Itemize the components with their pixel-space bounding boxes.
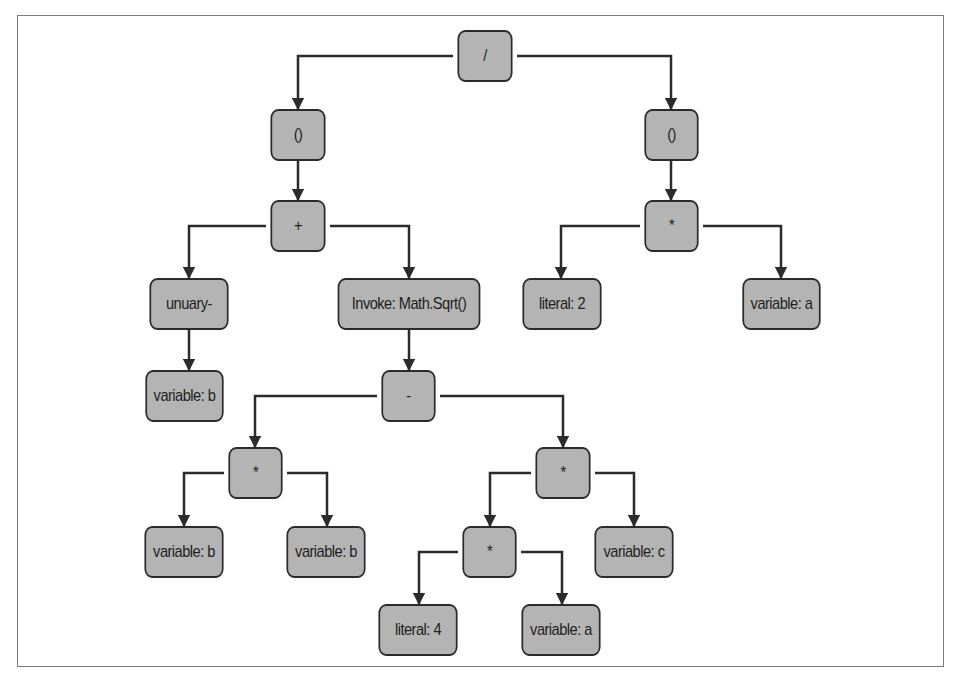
edges-layer — [0, 0, 961, 685]
node-label: literal: 2 — [539, 294, 585, 314]
node-multiply-4ac: * — [535, 447, 590, 499]
edge-arrow-mult-right-top-to-variable-a-top — [703, 226, 781, 278]
node-root-divide: / — [457, 30, 512, 82]
node-variable-b-1: variable: b — [144, 526, 223, 578]
node-plus: + — [270, 200, 325, 252]
edge-arrow-root-to-paren-right — [517, 56, 671, 109]
edge-arrow-mult-4ac-to-variable-c — [595, 473, 634, 526]
node-multiply-bb: * — [228, 447, 282, 499]
node-variable-b-2: variable: b — [286, 526, 365, 578]
node-unary-minus: unuary- — [149, 278, 228, 330]
edge-arrow-mult-bb-to-variable-b-1 — [184, 473, 224, 526]
node-label: variable: a — [751, 294, 813, 314]
edge-arrow-mult-right-top-to-literal-2 — [561, 226, 640, 278]
node-variable-b-unary: variable: b — [145, 370, 223, 422]
node-literal-2: literal: 2 — [522, 278, 601, 330]
node-variable-a-bottom: variable: a — [521, 604, 600, 656]
node-label: * — [487, 542, 492, 562]
node-literal-4: literal: 4 — [378, 604, 457, 656]
node-label: variable: b — [153, 542, 215, 562]
node-label: * — [560, 463, 565, 483]
node-multiply-4a: * — [462, 526, 516, 578]
node-label: literal: 4 — [395, 620, 441, 640]
node-variable-a-top: variable: a — [742, 278, 820, 330]
node-label: unuary- — [166, 294, 212, 314]
edge-arrow-root-to-paren-left — [298, 56, 453, 109]
node-label: variable: c — [604, 542, 665, 562]
edge-arrow-minus-to-mult-bb — [255, 396, 377, 447]
node-paren-left: () — [270, 109, 325, 161]
node-label: * — [669, 216, 674, 236]
node-label: () — [667, 125, 676, 145]
node-label: - — [406, 386, 410, 406]
edge-arrow-mult-4a-to-literal-4 — [419, 552, 458, 604]
node-minus: - — [381, 370, 435, 422]
edge-arrow-plus-to-invoke-sqrt — [330, 226, 409, 278]
node-label: variable: b — [295, 542, 357, 562]
edge-arrow-minus-to-mult-4ac — [440, 396, 563, 447]
node-label: + — [294, 216, 302, 236]
node-label: * — [253, 463, 258, 483]
node-invoke-sqrt: Invoke: Math.Sqrt() — [338, 278, 481, 330]
edge-arrow-mult-4ac-to-mult-4a — [490, 473, 531, 526]
edge-arrow-mult-bb-to-variable-b-2 — [287, 473, 327, 526]
node-label: / — [483, 46, 487, 66]
edge-arrow-plus-to-unary-minus — [189, 226, 266, 278]
edge-arrow-mult-4a-to-variable-a-bottom — [521, 552, 562, 604]
node-label: variable: b — [154, 386, 216, 406]
node-label: () — [294, 125, 303, 145]
node-multiply-2a: * — [644, 200, 698, 252]
node-label: variable: a — [530, 620, 592, 640]
node-paren-right: () — [644, 109, 698, 161]
node-variable-c: variable: c — [594, 526, 673, 578]
node-label: Invoke: Math.Sqrt() — [352, 294, 467, 314]
